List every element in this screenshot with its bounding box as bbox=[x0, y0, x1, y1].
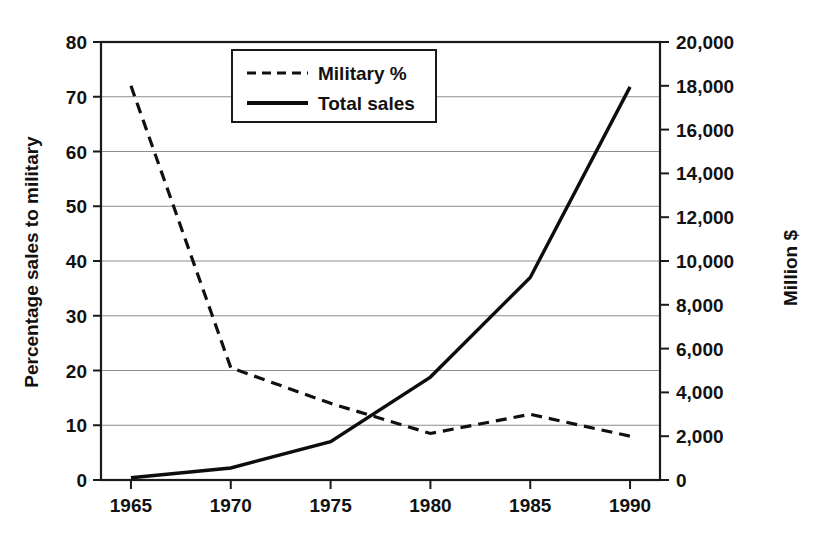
left-tick-label: 20 bbox=[66, 361, 87, 382]
left-tick-label: 30 bbox=[66, 306, 87, 327]
right-axis-title: Million $ bbox=[780, 230, 801, 306]
legend-label-military-percent: Military % bbox=[318, 63, 407, 84]
chart-legend: Military % Total sales bbox=[232, 50, 436, 122]
left-tick-label: 80 bbox=[66, 32, 87, 53]
legend-label-total-sales: Total sales bbox=[318, 93, 415, 114]
x-tick-label: 1970 bbox=[210, 495, 252, 516]
left-axis-title: Percentage sales to military bbox=[21, 136, 42, 388]
right-tick-label: 2,000 bbox=[676, 426, 724, 447]
right-tick-label: 20,000 bbox=[676, 32, 734, 53]
right-tick-label: 18,000 bbox=[676, 76, 734, 97]
x-tick-label: 1980 bbox=[409, 495, 451, 516]
right-tick-label: 6,000 bbox=[676, 339, 724, 360]
left-tick-label: 50 bbox=[66, 196, 87, 217]
right-tick-label: 16,000 bbox=[676, 120, 734, 141]
right-tick-label: 0 bbox=[676, 470, 687, 491]
left-tick-label: 40 bbox=[66, 251, 87, 272]
left-tick-label: 70 bbox=[66, 87, 87, 108]
x-tick-label: 1985 bbox=[509, 495, 552, 516]
x-tick-label: 1965 bbox=[110, 495, 153, 516]
x-tick-label: 1975 bbox=[309, 495, 352, 516]
chart-container: 01020304050607080 02,0004,0006,0008,0001… bbox=[0, 0, 832, 541]
right-tick-label: 12,000 bbox=[676, 207, 734, 228]
left-tick-label: 0 bbox=[76, 470, 87, 491]
x-tick-label: 1990 bbox=[609, 495, 651, 516]
right-tick-label: 8,000 bbox=[676, 295, 724, 316]
left-tick-label: 60 bbox=[66, 142, 87, 163]
right-tick-label: 4,000 bbox=[676, 382, 724, 403]
right-tick-label: 14,000 bbox=[676, 163, 734, 184]
right-tick-label: 10,000 bbox=[676, 251, 734, 272]
left-tick-label: 10 bbox=[66, 415, 87, 436]
line-chart: 01020304050607080 02,0004,0006,0008,0001… bbox=[0, 0, 832, 541]
left-axis-tick-labels: 01020304050607080 bbox=[66, 32, 87, 491]
